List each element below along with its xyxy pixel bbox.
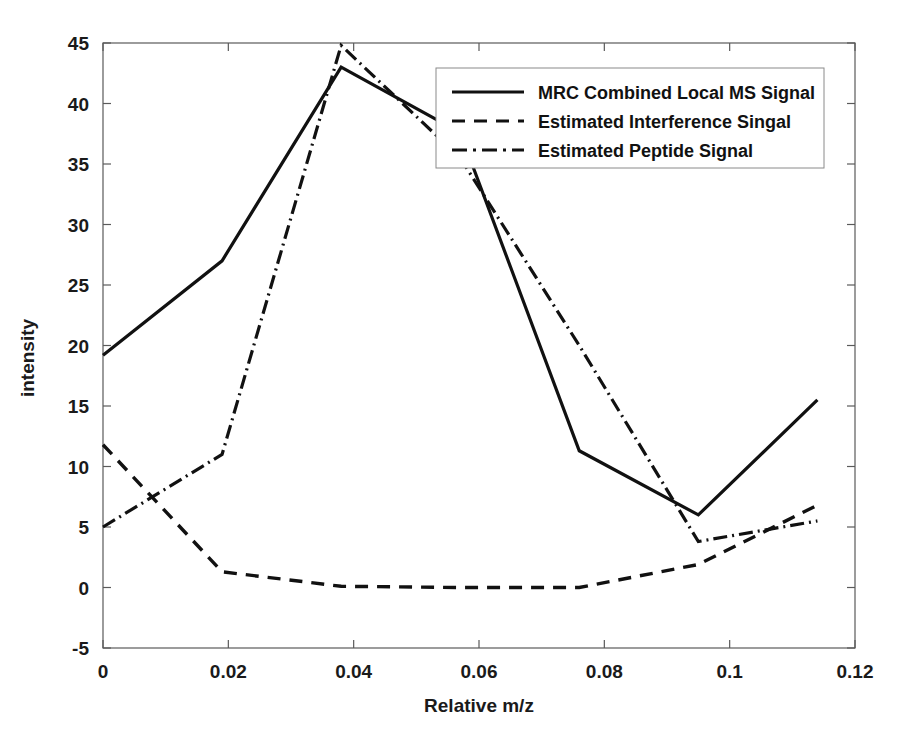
y-tick-label-3: 10 xyxy=(68,457,89,478)
y-tick-label-2: 5 xyxy=(78,517,89,538)
y-axis-tick-labels: -5051015202530354045 xyxy=(68,33,90,659)
x-tick-label-3: 0.06 xyxy=(461,661,498,682)
y-tick-label-8: 35 xyxy=(68,154,90,175)
x-tick-label-2: 0.04 xyxy=(335,661,372,682)
x-tick-label-1: 0.02 xyxy=(210,661,247,682)
line-chart: 00.020.040.060.080.10.12 -50510152025303… xyxy=(0,0,909,749)
y-tick-label-5: 20 xyxy=(68,336,89,357)
figure-canvas: 00.020.040.060.080.10.12 -50510152025303… xyxy=(0,0,909,749)
legend-label-1: Estimated Interference Singal xyxy=(538,112,791,132)
x-tick-label-6: 0.12 xyxy=(837,661,874,682)
x-tick-label-4: 0.08 xyxy=(586,661,623,682)
y-tick-label-9: 40 xyxy=(68,94,89,115)
y-tick-label-4: 15 xyxy=(68,396,90,417)
y-tick-label-6: 25 xyxy=(68,275,90,296)
y-axis-title: intensity xyxy=(17,319,38,398)
y-tick-label-7: 30 xyxy=(68,215,89,236)
x-tick-label-0: 0 xyxy=(98,661,109,682)
x-axis-tick-labels: 00.020.040.060.080.10.12 xyxy=(98,661,874,682)
x-tick-label-5: 0.1 xyxy=(716,661,743,682)
legend-label-2: Estimated Peptide Signal xyxy=(538,141,753,161)
y-tick-label-1: 0 xyxy=(78,578,89,599)
y-tick-label-10: 45 xyxy=(68,33,90,54)
series-line-1 xyxy=(103,445,817,588)
x-axis-title: Relative m/z xyxy=(424,695,534,716)
chart-legend: MRC Combined Local MS SignalEstimated In… xyxy=(436,68,824,168)
legend-label-0: MRC Combined Local MS Signal xyxy=(538,83,815,103)
y-tick-label-0: -5 xyxy=(72,638,89,659)
